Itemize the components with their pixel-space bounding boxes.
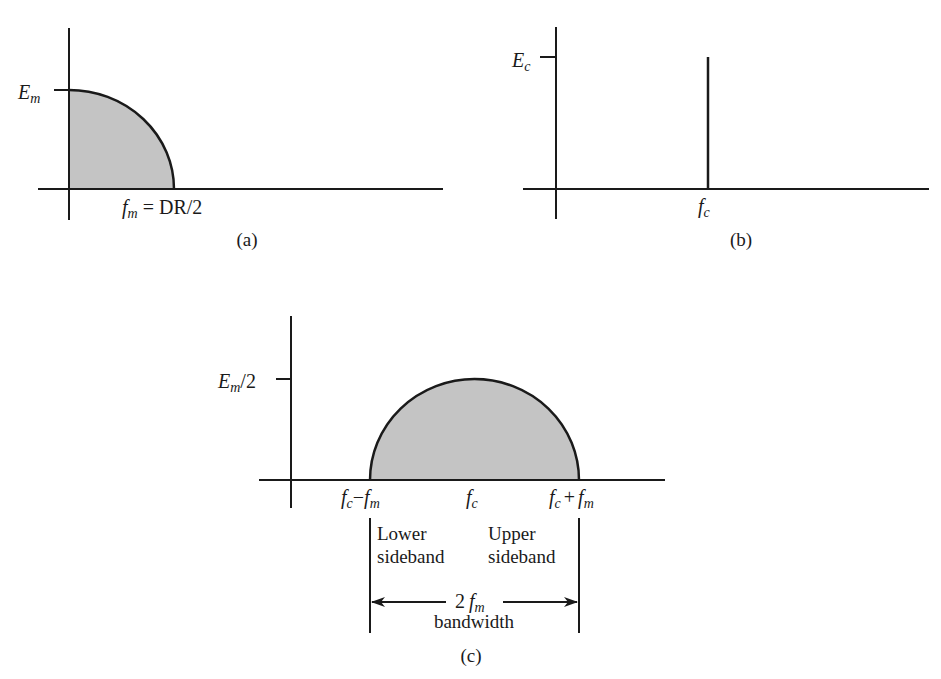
bandwidth-label: bandwidth [434, 611, 515, 632]
panel-b-fc-label: fc [698, 195, 711, 220]
panel-c-lower-freq-label: fc−fm [341, 486, 380, 511]
sidebands-semi-ellipse [370, 379, 579, 480]
upper-sideband-label-line1: Upper [488, 523, 536, 544]
am-spectrum-diagram: Em fm = DR/2 (a) Ec fc (b) Em/2 fc−fm fc… [0, 0, 941, 679]
panel-c-upper-freq-label: fc+fm [549, 486, 594, 511]
panel-c-caption: (c) [460, 645, 481, 667]
lower-sideband-label-line2: sideband [377, 546, 445, 567]
panel-b-carrier-spectrum: Ec fc (b) [511, 27, 929, 251]
panel-c-modulated-spectrum: Em/2 fc−fm fc fc+fm Lower sideband Upper… [217, 316, 665, 667]
panel-a-em-label: Em [17, 81, 40, 106]
panel-c-center-freq-label: fc [466, 486, 479, 511]
panel-c-em2-label: Em/2 [217, 370, 256, 395]
panel-a-caption: (a) [236, 229, 257, 251]
baseband-quarter-ellipse [69, 90, 174, 189]
panel-b-caption: (b) [730, 229, 752, 251]
lower-sideband-label-line1: Lower [377, 523, 427, 544]
panel-a-baseband-spectrum: Em fm = DR/2 (a) [17, 28, 443, 251]
panel-b-ec-label: Ec [511, 49, 531, 74]
upper-sideband-label-line2: sideband [488, 546, 556, 567]
panel-a-fm-label: fm = DR/2 [122, 196, 202, 221]
